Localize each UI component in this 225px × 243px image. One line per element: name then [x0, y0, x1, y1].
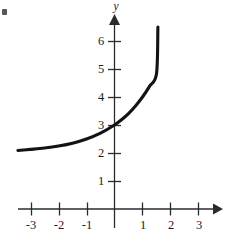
exponential-curve-path — [18, 27, 158, 150]
y-tick-label-1: 1 — [98, 174, 104, 188]
x-axis-arrow-icon — [213, 204, 223, 215]
x-tick-label-3: 3 — [196, 218, 202, 232]
exponential-graph-figure: -3 -2 -1 1 2 3 6 5 4 3 2 1 y — [0, 0, 225, 243]
y-tick-label-2: 2 — [98, 146, 104, 160]
y-axis-label: y — [112, 0, 119, 13]
x-tick-label-2: 2 — [168, 218, 174, 232]
y-tick-label-5: 5 — [98, 62, 104, 76]
y-tick-label-6: 6 — [98, 34, 104, 48]
x-tick-label--3: -3 — [26, 218, 36, 232]
y-axis-arrow-icon — [109, 14, 120, 25]
y-tick-label-3: 3 — [98, 118, 104, 132]
plot-canvas: -3 -2 -1 1 2 3 6 5 4 3 2 1 y — [0, 0, 225, 243]
x-tick-label--2: -2 — [54, 218, 64, 232]
x-tick-label-1: 1 — [140, 218, 146, 232]
x-tick-label--1: -1 — [82, 218, 92, 232]
y-tick-label-4: 4 — [98, 90, 105, 104]
